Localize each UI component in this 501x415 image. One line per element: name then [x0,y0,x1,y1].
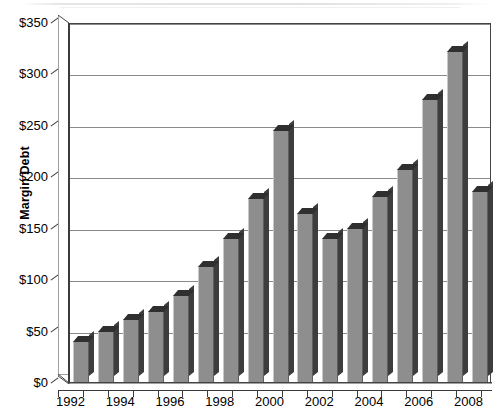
y-tick-50: $50 [0,325,48,338]
bar-2004 [372,196,388,382]
bar-2006 [422,99,438,382]
gridline [70,24,490,25]
y-tick-label: $150 [2,222,48,235]
top-edge-artifact [20,3,490,5]
bar-front-face [248,198,264,382]
x-axis-label-2008: 2008 [444,394,494,409]
bar-front-face [422,99,438,382]
x-axis-label-1992: 1992 [45,394,95,409]
y-tick-300: $300 [0,67,48,80]
bar-front-face [123,319,139,382]
bar-side-face [338,228,343,376]
y-tick-200: $200 [0,170,48,183]
bar-1998 [223,238,239,382]
bar-front-face [372,196,388,382]
bar-front-face [447,51,463,382]
bar-front-face [397,169,413,382]
bar-1992 [73,341,89,382]
bar-side-face [488,181,493,376]
gridline [70,75,490,76]
bar-front-face [273,130,289,382]
y-tick-label: $250 [2,119,48,132]
bar-1999 [248,198,264,382]
bar-side-face [239,228,244,376]
bar-front-face [98,331,114,382]
x-axis-label-2002: 2002 [294,394,344,409]
y-tick-350: $350 [0,16,48,29]
x-axis-label-1996: 1996 [145,394,195,409]
bar-side-face [363,218,368,376]
bar-side-face [463,41,468,376]
top-edge-artifact-secondary [60,7,460,8]
bar-1997 [198,266,214,382]
y-tick-label: $200 [2,170,48,183]
y-tick-0: $0 [0,376,48,389]
bar-front-face [347,228,363,382]
bar-side-face [313,203,318,376]
bar-front-face [322,238,338,382]
bar-2005 [397,169,413,382]
bar-2000 [273,130,289,382]
bar-front-face [297,213,313,382]
bar-front-face [73,341,89,382]
x-axis-label-2004: 2004 [344,394,394,409]
bar-1994 [123,319,139,382]
bar-side-face [189,285,194,376]
bar-front-face [148,311,164,382]
x-axis-label-2006: 2006 [394,394,444,409]
bar-1996 [173,295,189,382]
bar-side-face [264,188,269,376]
x-axis-label-1994: 1994 [95,394,145,409]
bar-front-face [223,238,239,382]
bar-2002 [322,238,338,382]
y-tick-label: $100 [2,273,48,286]
y-tick-250: $250 [0,119,48,132]
bar-front-face [472,191,488,382]
bar-side-face [214,256,219,376]
y-tick-label: $0 [2,376,48,389]
bar-side-face [139,309,144,376]
margin-debt-bar-chart: Margin Debt $0$50$100$150$200$250$300$35… [0,0,501,415]
bar-side-face [164,301,169,376]
bar-side-face [289,120,294,376]
bar-side-face [413,159,418,376]
y-tick-150: $150 [0,222,48,235]
bar-2007 [447,51,463,382]
y-tick-label: $50 [2,325,48,338]
x-axis-line [58,390,492,391]
plot-area [68,23,491,383]
bar-front-face [198,266,214,382]
bar-2001 [297,213,313,382]
bar-1995 [148,311,164,382]
y-tick-label: $300 [2,67,48,80]
x-axis-label-1998: 1998 [195,394,245,409]
bar-front-face [173,295,189,382]
bar-2003 [347,228,363,382]
y-tick-100: $100 [0,273,48,286]
bar-side-face [388,186,393,376]
bar-side-face [438,89,443,376]
y-tick-label: $350 [2,16,48,29]
bar-2008 [472,191,488,382]
x-axis-label-2000: 2000 [245,394,295,409]
bar-1993 [98,331,114,382]
